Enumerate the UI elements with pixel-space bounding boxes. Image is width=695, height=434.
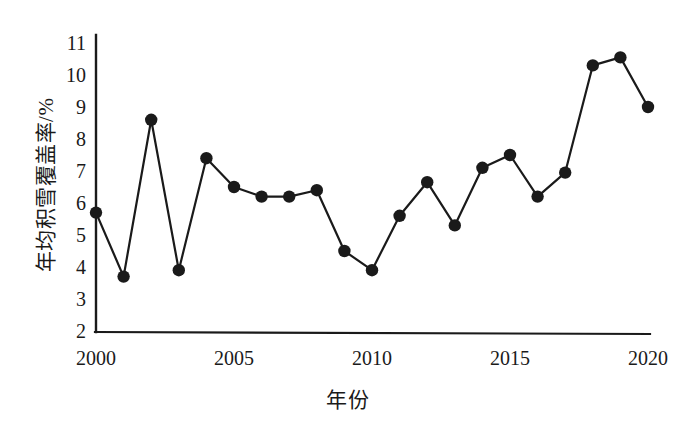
- data-point-2010: [366, 264, 378, 276]
- snow-cover-line-chart: 11 10 9 8 7 6 5 4 3 2 2000 2005 2010 201…: [0, 0, 695, 434]
- data-point-2018: [587, 59, 599, 71]
- data-point-2002: [145, 114, 157, 126]
- data-point-2006: [255, 190, 267, 202]
- data-point-2020: [642, 101, 654, 113]
- x-tick-2020: 2020: [608, 348, 688, 368]
- data-point-2005: [228, 181, 240, 193]
- data-point-2017: [559, 166, 571, 178]
- data-point-2003: [173, 264, 185, 276]
- data-point-2013: [449, 219, 461, 231]
- x-axis-title: 年份: [0, 383, 695, 413]
- data-point-2007: [283, 190, 295, 202]
- data-point-2019: [614, 51, 626, 63]
- data-point-2016: [531, 190, 543, 202]
- data-point-2015: [504, 149, 516, 161]
- y-axis-title: 年均积雪覆盖率/%: [29, 45, 59, 325]
- data-point-2011: [393, 210, 405, 222]
- x-tick-2010: 2010: [332, 348, 412, 368]
- data-point-2014: [476, 162, 488, 174]
- data-point-2004: [200, 152, 212, 164]
- x-tick-2015: 2015: [470, 348, 550, 368]
- data-point-2012: [421, 176, 433, 188]
- data-point-2008: [311, 184, 323, 196]
- x-axis-line: [95, 332, 650, 334]
- x-tick-2000: 2000: [56, 348, 136, 368]
- data-point-2009: [338, 245, 350, 257]
- x-tick-2005: 2005: [194, 348, 274, 368]
- data-point-2001: [117, 270, 129, 282]
- data-point-2000: [90, 206, 102, 218]
